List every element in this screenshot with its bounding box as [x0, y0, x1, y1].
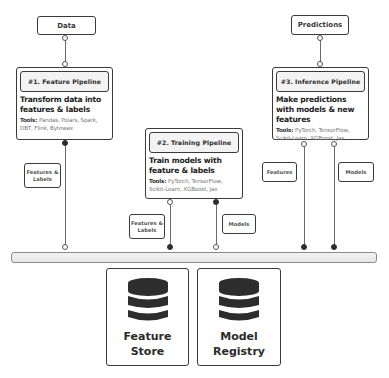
predictions-box: Predictions	[291, 15, 349, 35]
database-icon	[126, 277, 170, 323]
storage-bus	[11, 252, 377, 263]
connector-dot	[331, 244, 337, 250]
tools-label: Tools:	[276, 127, 293, 133]
edge-label-inference-models: Models	[338, 162, 374, 182]
feature-store-title: Feature Store	[118, 329, 178, 359]
edge-label-features-labels: Features & Labels	[24, 163, 61, 188]
training-pipeline-description: Train models with feature & labels	[149, 156, 239, 176]
feature-pipeline-tools: Tools: Pandas, Polars, Spark, DBT, Flink…	[20, 116, 109, 132]
database-icon	[217, 277, 261, 323]
connector-dot	[213, 244, 219, 250]
connector-dot	[167, 244, 173, 250]
connector-dot	[301, 244, 307, 250]
edge-label-training-features-labels: Features & Labels	[129, 214, 165, 239]
inference-pipeline-title: #3. Inference Pipeline	[276, 71, 365, 92]
feature-pipeline-title: #1. Feature Pipeline	[20, 71, 109, 92]
training-pipeline-box: #2. Training Pipeline Train models with …	[145, 128, 243, 199]
edge-label-training-models: Models	[222, 214, 256, 234]
inference-pipeline-tools: Tools: PyTorch, TensorFlow, Scikit-Learn…	[276, 126, 365, 142]
predictions-label: Predictions	[298, 21, 343, 29]
edge-label-inference-features: Features	[262, 162, 297, 182]
inference-pipeline-description: Make predictions with models & new featu…	[276, 95, 365, 125]
data-source-label: Data	[57, 22, 76, 30]
inference-pipeline-box: #3. Inference Pipeline Make predictions …	[272, 67, 369, 140]
feature-store-box: Feature Store	[106, 268, 189, 366]
data-source-box: Data	[37, 16, 96, 35]
connector-line	[304, 147, 305, 245]
feature-pipeline-description: Transform data into features & labels	[20, 95, 109, 115]
tools-label: Tools:	[20, 117, 37, 123]
connector-line	[65, 40, 66, 62]
model-registry-box: Model Registry	[197, 268, 281, 366]
training-pipeline-title: #2. Training Pipeline	[149, 132, 239, 153]
feature-pipeline-box: #1. Feature Pipeline Transform data into…	[16, 67, 113, 140]
connector-line	[170, 205, 171, 245]
connector-line	[65, 146, 66, 246]
connector-dot	[62, 244, 68, 250]
connector-line	[216, 205, 217, 245]
connector-line	[320, 40, 321, 62]
model-registry-title: Model Registry	[209, 329, 269, 359]
training-pipeline-tools: Tools: PyTorch, TensorFlow, Scikit-Learn…	[149, 177, 239, 193]
tools-label: Tools:	[149, 178, 166, 184]
connector-line	[334, 147, 335, 245]
